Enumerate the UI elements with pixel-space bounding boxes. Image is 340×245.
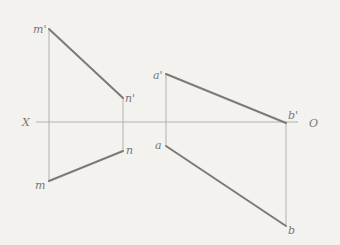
label-b: b [288, 224, 295, 237]
line-a-b [166, 146, 286, 226]
axis-label-o: O [309, 117, 318, 130]
label-m: m [35, 179, 45, 192]
line-m-prime-n-prime [49, 29, 123, 98]
line-a-prime-b-prime [166, 74, 286, 123]
label-n-prime: n' [125, 92, 135, 105]
label-a-prime: a' [153, 69, 163, 82]
label-m-prime: m' [33, 23, 46, 36]
line-m-n [49, 151, 123, 181]
label-b-prime: b' [288, 109, 298, 122]
axis-label-x: X [21, 116, 31, 129]
projection-diagram: X O m' n' n m a' b' a b [0, 0, 340, 245]
label-n: n [126, 144, 133, 157]
label-a: a [155, 139, 162, 152]
